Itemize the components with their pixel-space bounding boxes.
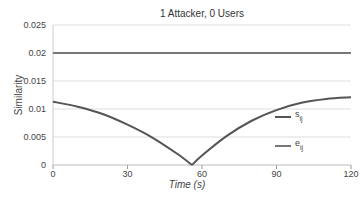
y-axis-label: Similarity <box>13 75 24 116</box>
y-tick-label: 0.025 <box>23 20 46 30</box>
y-tick-label: 0.02 <box>28 48 46 58</box>
y-axis-ticks: 00.0050.010.0150.020.025 <box>23 20 46 170</box>
chart-title: 1 Attacker, 0 Users <box>160 8 244 19</box>
y-tick-label: 0 <box>41 160 46 170</box>
grid-lines <box>53 25 351 137</box>
x-axis-ticks: 0306090120 <box>50 165 358 179</box>
x-tick-label: 60 <box>197 169 207 179</box>
similarity-line-chart: 1 Attacker, 0 Users 00.0050.010.0150.020… <box>0 0 363 198</box>
x-tick-label: 90 <box>271 169 281 179</box>
y-tick-label: 0.01 <box>28 104 46 114</box>
x-tick-label: 120 <box>343 169 358 179</box>
y-tick-label: 0.005 <box>23 132 46 142</box>
legend: sijeij <box>275 109 304 152</box>
x-tick-label: 30 <box>122 169 132 179</box>
x-tick-label: 0 <box>50 169 55 179</box>
legend-label-e_ij: eij <box>295 138 304 152</box>
x-axis-label: Time (s) <box>169 179 206 190</box>
y-tick-label: 0.015 <box>23 76 46 86</box>
legend-label-s_ij: sij <box>295 109 303 123</box>
series-line-s_ij <box>53 97 351 165</box>
